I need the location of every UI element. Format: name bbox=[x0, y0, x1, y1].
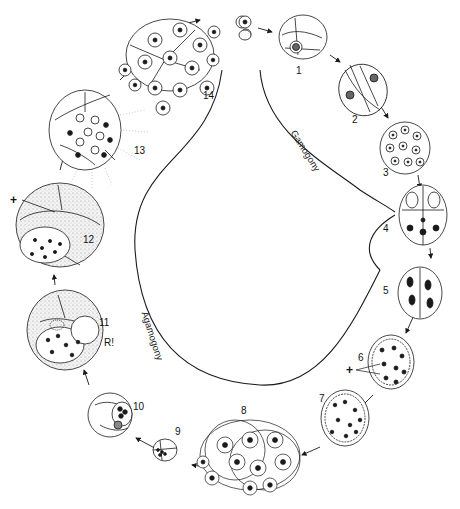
stage-14-gametes bbox=[119, 16, 251, 115]
stage-7-label: 7 bbox=[319, 394, 325, 404]
stage-4-cluster bbox=[399, 185, 447, 245]
stage-14-label: 14 bbox=[203, 91, 214, 101]
reduction-mark: R! bbox=[104, 338, 114, 348]
stage-10-label: 10 bbox=[133, 402, 144, 412]
stage-13-label: 13 bbox=[134, 146, 145, 156]
stage-5-label: 5 bbox=[383, 286, 389, 296]
stage-12-label: 12 bbox=[83, 235, 94, 245]
stage-2-label: 2 bbox=[352, 115, 358, 125]
stage-10-test bbox=[88, 393, 132, 437]
stage-13-test bbox=[49, 90, 148, 190]
stage-1-test bbox=[279, 15, 327, 59]
stage-6-label: 6 bbox=[358, 353, 364, 363]
stage-11-test bbox=[27, 290, 103, 370]
plus-mark-stage-12: + bbox=[10, 193, 17, 207]
stage-12-test bbox=[16, 183, 104, 267]
stage-5-cluster bbox=[398, 267, 442, 319]
stage-8-label: 8 bbox=[241, 406, 247, 416]
stage-9-test bbox=[153, 439, 177, 461]
stage-4-label: 4 bbox=[383, 224, 389, 234]
life-cycle-diagram bbox=[0, 0, 460, 509]
stage-3-label: 3 bbox=[383, 168, 389, 178]
stage-6-cluster bbox=[356, 335, 414, 389]
stage-1-label: 1 bbox=[296, 66, 302, 76]
stage-11-label: 11 bbox=[99, 318, 109, 328]
stage-8-embryos bbox=[197, 420, 300, 495]
stage-7-cluster bbox=[321, 390, 369, 446]
plus-mark-stage-6: + bbox=[346, 363, 353, 377]
stage-9-label: 9 bbox=[175, 427, 181, 437]
